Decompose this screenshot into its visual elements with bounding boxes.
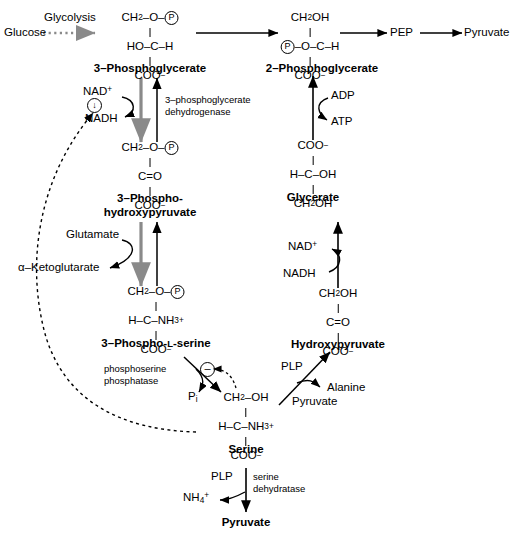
feedback-arrow-circle-icon: ↓ bbox=[87, 98, 102, 113]
label-pyruvate-top: Pyruvate bbox=[464, 27, 509, 39]
enzyme-serine-dehydratase-line2: dehydratase bbox=[253, 484, 305, 494]
pathway-diagram: Glucose Glycolysis CH2–O–P HO–C–H COO− 3… bbox=[0, 0, 515, 540]
phosphate-circle-icon: P bbox=[170, 285, 184, 299]
phosphate-circle-icon: P bbox=[281, 40, 295, 54]
phosphate-circle-icon: P bbox=[164, 141, 178, 155]
label-glycolysis: Glycolysis bbox=[44, 12, 96, 24]
label-serine: Serine bbox=[228, 444, 263, 456]
enzyme-pgdh-line1: 3–phosphoglycerate bbox=[165, 95, 251, 105]
pser-part3: -serine bbox=[173, 337, 211, 349]
struct-2pg-top: CH2OH bbox=[281, 8, 340, 28]
label-nad-plus-left: NAD+ bbox=[83, 86, 112, 98]
struct-serine-top: CH2–OH bbox=[218, 388, 273, 408]
label-adp: ADP bbox=[331, 90, 355, 102]
label-nadh-right: NADH bbox=[283, 268, 316, 280]
arrow-serine-inhibition bbox=[213, 369, 236, 388]
label-plp-serine-dehydratase: PLP bbox=[211, 471, 233, 483]
label-alpha-ketoglutarate: α–Ketoglutarate bbox=[18, 262, 99, 274]
pser-part1: 3–Phospho- bbox=[101, 337, 167, 349]
arrow-nad-to-nadh-upper bbox=[122, 97, 133, 117]
label-nad-plus-right: NAD+ bbox=[288, 241, 317, 253]
struct-3pg-mid: HO–C–H bbox=[122, 37, 179, 57]
enzyme-pgdh-line2: dehydrogenase bbox=[165, 107, 231, 117]
label-php-line1: 3–Phospho- bbox=[117, 193, 183, 205]
struct-gly-mid: H–C–OH bbox=[290, 165, 337, 185]
label-pep: PEP bbox=[390, 27, 413, 39]
arrow-release-ammonium bbox=[220, 492, 245, 500]
enzyme-phosphoserine-phosphatase-line1: phosphoserine bbox=[104, 364, 166, 374]
label-glucose: Glucose bbox=[4, 27, 46, 39]
enzyme-serine-dehydratase-line1: serine bbox=[253, 472, 279, 482]
arrow-glutamate-to-akg bbox=[110, 240, 132, 268]
label-alanine: Alanine bbox=[327, 382, 365, 394]
struct-pserine-top: CH2–O–P bbox=[128, 282, 185, 302]
arrow-adp-to-atp bbox=[319, 98, 328, 120]
inhibition-minus-circle-icon: – bbox=[200, 362, 215, 377]
label-pi: Pi bbox=[188, 391, 198, 404]
struct-serine-mid: H–C–NH3+ bbox=[218, 417, 273, 437]
label-2-phosphoglycerate: 2–Phosphoglycerate bbox=[266, 63, 378, 75]
struct-php-mid: C=O bbox=[122, 167, 179, 187]
label-plp-alanine: PLP bbox=[281, 361, 303, 373]
struct-php-top: CH2–O–P bbox=[122, 138, 179, 158]
struct-gly-top: COO− bbox=[290, 136, 337, 156]
label-3-phosphoglycerate: 3–Phosphoglycerate bbox=[94, 63, 206, 75]
struct-3pg-top: CH2–O–P bbox=[122, 8, 179, 28]
label-glutamate: Glutamate bbox=[66, 229, 119, 241]
label-3-phospho-l-serine: 3–Phospho-L-serine bbox=[101, 338, 210, 350]
phosphate-circle-icon: P bbox=[164, 11, 178, 25]
label-nadh-left: NADH bbox=[85, 113, 118, 125]
arrow-pyruvate-to-alanine bbox=[297, 380, 320, 387]
arrow-nadh-to-nad-right bbox=[329, 249, 340, 272]
label-glycerate: Glycerate bbox=[287, 192, 339, 204]
label-ammonium: NH4+ bbox=[183, 492, 209, 505]
enzyme-phosphoserine-phosphatase-line2: phosphatase bbox=[104, 376, 158, 386]
label-hydroxypyruvate: Hydroxypyruvate bbox=[291, 339, 385, 351]
label-pyruvate-cofactor: Pyruvate bbox=[292, 396, 337, 408]
label-php-line2: hydroxypyruvate bbox=[104, 207, 197, 219]
struct-hp-mid: C=O bbox=[319, 313, 357, 333]
label-pyruvate-bottom: Pyruvate bbox=[222, 517, 271, 529]
struct-pserine-mid: H–C–NH3+ bbox=[128, 311, 185, 331]
struct-hp-top: CH2OH bbox=[319, 284, 357, 304]
struct-2pg-mid: P–O–C–H bbox=[281, 37, 340, 57]
label-atp: ATP bbox=[331, 116, 353, 128]
